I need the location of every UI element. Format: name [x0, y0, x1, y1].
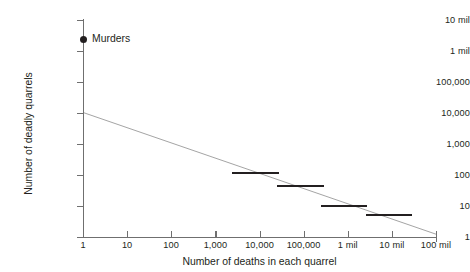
data-segment-4 [366, 214, 412, 216]
data-segment-1 [232, 172, 279, 174]
y-tick-mark-10000 [77, 113, 83, 114]
y-tick-label-10: 10 [396, 201, 470, 211]
x-axis-title: Number of deaths in each quarrel [83, 256, 436, 267]
x-tick-label-1: 1 [80, 240, 85, 250]
x-tick-label-100: 100 [163, 240, 179, 250]
y-tick-label-10-mil: 10 mil [396, 15, 470, 25]
x-tick-label-100000: 100,000 [287, 240, 321, 250]
y-tick-mark-1-mil [77, 51, 83, 52]
data-segment-2 [277, 185, 324, 187]
x-tick-mark-100 [171, 231, 172, 237]
murders-label: Murders [92, 33, 130, 44]
x-tick-mark-100000 [304, 231, 305, 237]
y-tick-label-1000: 1,000 [396, 139, 470, 149]
x-tick-mark-1 [83, 231, 84, 237]
x-tick-mark-1-mil [348, 231, 349, 237]
x-tick-label-10: 10 [122, 240, 132, 250]
y-tick-mark-100 [77, 175, 83, 176]
x-tick-label-10-mil: 10 mil [379, 240, 404, 250]
murders-marker-dot [80, 36, 87, 43]
x-tick-label-10000: 10,000 [245, 240, 274, 250]
y-tick-mark-100000 [77, 82, 83, 83]
x-tick-mark-10 [127, 231, 128, 237]
y-tick-label-100: 100 [396, 170, 470, 180]
data-segment-3 [321, 205, 367, 207]
y-tick-mark-10 [77, 206, 83, 207]
y-tick-label-100000: 100,000 [396, 77, 470, 87]
x-tick-label-1-mil: 1 mil [338, 240, 358, 250]
chart-log-log-deadly-quarrels: 10 mil 1 mil 100,000 10,000 1,000 100 10… [0, 0, 470, 272]
y-tick-label-10000: 10,000 [396, 108, 470, 118]
x-tick-mark-1000 [215, 231, 216, 237]
x-tick-mark-10000 [260, 231, 261, 237]
y-tick-label-1-mil: 1 mil [396, 46, 470, 56]
x-tick-label-100-mil: 100 mil [421, 240, 451, 250]
y-axis-line [83, 19, 84, 238]
x-tick-label-1000: 1,000 [204, 240, 228, 250]
x-tick-mark-10-mil [392, 231, 393, 237]
x-tick-mark-100-mil [436, 231, 437, 237]
y-tick-mark-10-mil [77, 20, 83, 21]
y-axis-title: Number of deadly quarrels [23, 39, 34, 229]
y-tick-mark-1000 [77, 144, 83, 145]
